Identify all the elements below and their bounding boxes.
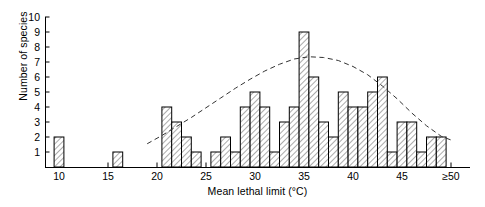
histogram-bar — [436, 137, 446, 167]
histogram-bar — [260, 107, 270, 167]
histogram-bar — [407, 122, 417, 167]
histogram-bar — [270, 152, 280, 167]
histogram-figure: Number of species Mean lethal limit (°C)… — [0, 0, 485, 207]
histogram-bar — [289, 107, 299, 167]
y-tick-label-group: 12345678910 — [28, 11, 40, 158]
y-tick-label: 9 — [34, 26, 40, 38]
y-axis-label: Number of species — [17, 0, 29, 131]
histogram-bar — [211, 152, 221, 167]
histogram-bar — [54, 137, 64, 167]
x-tick-label-group: 1015202530354045≥50 — [53, 170, 460, 182]
y-tick-label: 7 — [34, 56, 40, 68]
y-tick-label: 1 — [34, 146, 40, 158]
x-tick-label: 25 — [200, 170, 212, 182]
histogram-bar — [250, 92, 260, 167]
x-tick-label: 45 — [396, 170, 408, 182]
histogram-bar — [113, 152, 123, 167]
y-tick-label: 4 — [34, 101, 40, 113]
histogram-bar — [309, 77, 319, 167]
histogram-bar — [338, 92, 348, 167]
histogram-bar — [221, 137, 231, 167]
x-axis-label: Mean lethal limit (°C) — [45, 185, 470, 197]
histogram-bar — [368, 92, 378, 167]
histogram-bar — [299, 32, 309, 167]
histogram-bar — [280, 122, 290, 167]
histogram-bars — [54, 32, 446, 167]
y-tick-label: 10 — [28, 11, 40, 23]
histogram-bar — [348, 107, 358, 167]
histogram-bar — [427, 137, 437, 167]
y-tick-label: 3 — [34, 116, 40, 128]
x-tick-label: 20 — [151, 170, 163, 182]
y-tick-label: 6 — [34, 71, 40, 83]
y-tick-label: 5 — [34, 86, 40, 98]
histogram-bar — [329, 137, 339, 167]
histogram-bar — [191, 152, 201, 167]
histogram-bar — [319, 122, 329, 167]
histogram-bar — [387, 152, 397, 167]
histogram-bar — [231, 152, 241, 167]
x-tick-label: 15 — [102, 170, 114, 182]
x-tick-label: ≥50 — [442, 170, 460, 182]
histogram-bar — [417, 152, 427, 167]
y-tick-label: 2 — [34, 131, 40, 143]
x-tick-label: 35 — [298, 170, 310, 182]
histogram-bar — [240, 107, 250, 167]
histogram-bar — [162, 107, 172, 167]
y-tick-label: 8 — [34, 41, 40, 53]
histogram-bar — [182, 137, 192, 167]
histogram-bar — [358, 107, 368, 167]
x-tick-label: 10 — [53, 170, 65, 182]
histogram-bar — [397, 122, 407, 167]
histogram-bar — [378, 77, 388, 167]
plot-area: 12345678910 1015202530354045≥50 — [0, 0, 485, 207]
x-tick-label: 40 — [347, 170, 359, 182]
x-tick-label: 30 — [249, 170, 261, 182]
